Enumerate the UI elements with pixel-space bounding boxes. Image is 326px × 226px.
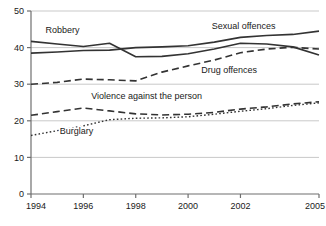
y-tick-label: 50 [14,6,24,16]
y-tick-label: 30 [14,79,24,89]
x-tick-label: 2000 [178,201,198,211]
x-tick-labels: 199419961998200020022005 [26,201,325,211]
x-tick-label: 1996 [73,201,93,211]
y-axis [27,11,31,194]
series-label-drug-offences: Drug offences [201,65,257,75]
y-tick-label: 0 [19,189,24,199]
series-line-3 [31,102,319,116]
series-line-2 [31,47,319,84]
series-line-0 [31,41,319,56]
x-tick-label: 1994 [26,201,46,211]
x-tick-label: 1998 [126,201,146,211]
x-tick-label: 2002 [230,201,250,211]
series-label-sexual-offences: Sexual offences [212,21,276,31]
y-tick-label: 20 [14,116,24,126]
x-axis [31,194,319,198]
x-tick-label: 2005 [305,201,325,211]
data-series [31,31,319,135]
series-label-burglary: Burglary [60,126,94,136]
series-label-violence-against-the-person: Violence against the person [91,91,202,101]
line-chart: 01020304050 199419961998200020022005 Rob… [0,0,326,226]
y-tick-label: 10 [14,153,24,163]
y-tick-label: 40 [14,43,24,53]
series-label-robbery: Robbery [45,25,80,35]
chart-canvas: 01020304050 199419961998200020022005 Rob… [0,0,326,226]
y-tick-labels: 01020304050 [14,6,24,199]
